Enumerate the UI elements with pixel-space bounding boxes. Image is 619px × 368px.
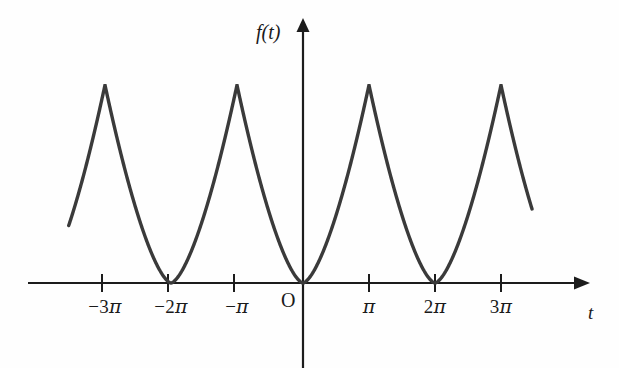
x-axis-label: t — [588, 303, 593, 322]
x-tick-label: π — [363, 297, 376, 316]
x-tick-label: 2π — [424, 297, 446, 316]
y-axis-arrowhead — [297, 18, 310, 32]
function-curve — [69, 86, 532, 283]
y-axis-label: f(t) — [256, 22, 280, 42]
origin-label: O — [281, 290, 295, 310]
figure-container: f(t) t O −3π−2π−ππ2π3π — [0, 0, 619, 368]
x-tick-label: 3π — [490, 297, 512, 316]
x-tick-label: −2π — [154, 297, 187, 316]
x-tick-label: −3π — [88, 297, 121, 316]
x-axis-arrowhead — [574, 277, 590, 290]
x-tick-label: −π — [225, 297, 249, 316]
